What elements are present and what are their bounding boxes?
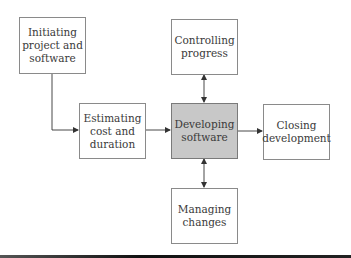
node-initiating-project: Initiating project and software [19, 17, 86, 74]
edge-initiating-estimating [52, 73, 78, 130]
node-controlling-progress: Controlling progress [171, 19, 238, 75]
node-label: Managing changes [178, 203, 232, 229]
node-managing-changes: Managing changes [171, 188, 238, 244]
node-closing-development: Closing development [263, 104, 330, 160]
node-label: Controlling progress [174, 34, 234, 60]
node-estimating-cost: Estimating cost and duration [79, 103, 146, 159]
node-label: Closing development [262, 119, 331, 145]
node-developing-software: Developing software [171, 103, 238, 159]
node-label: Developing software [174, 118, 234, 144]
node-label: Estimating cost and duration [84, 112, 142, 151]
node-label: Initiating project and software [22, 26, 83, 65]
